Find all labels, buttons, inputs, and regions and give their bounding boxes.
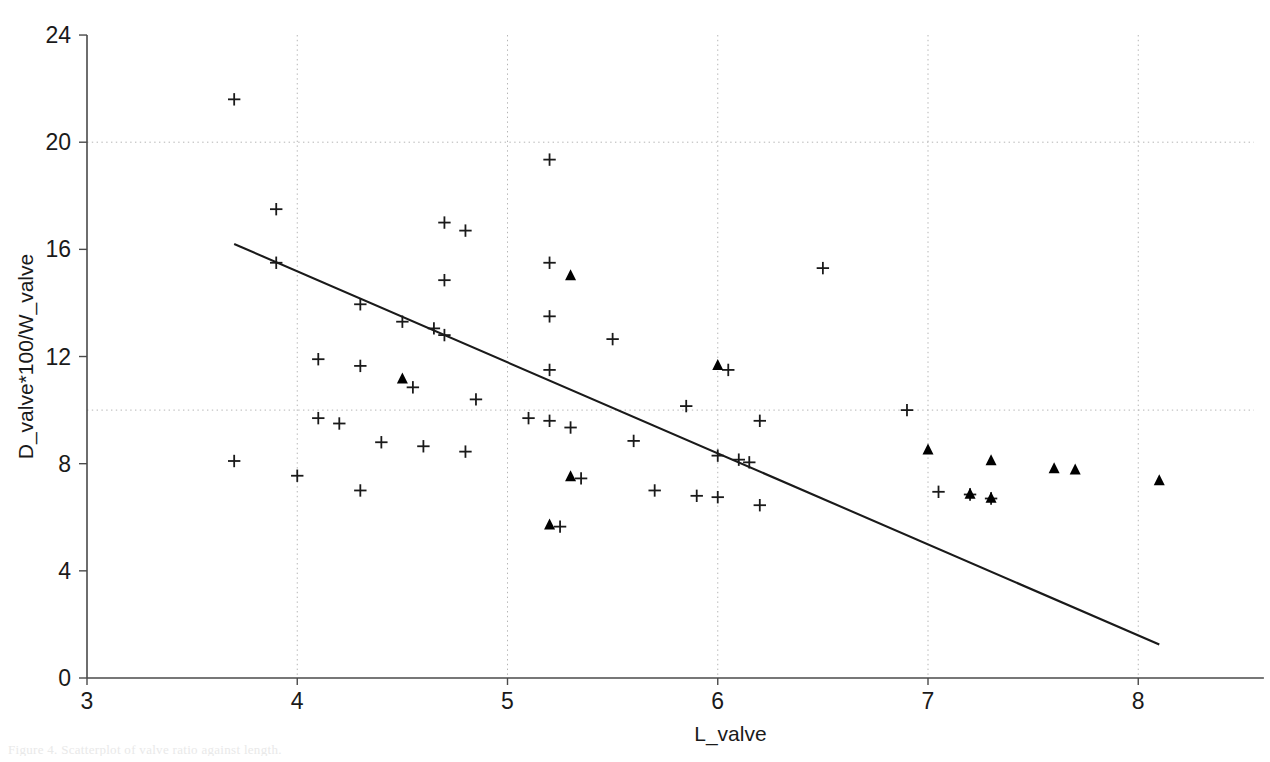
plus-marker xyxy=(459,445,471,457)
plus-marker xyxy=(470,393,482,405)
plus-marker xyxy=(722,364,734,376)
gridlines-group xyxy=(87,35,1254,678)
data-markers-group xyxy=(228,93,1165,533)
plus-marker xyxy=(543,364,555,376)
plus-marker xyxy=(354,484,366,496)
plus-marker xyxy=(901,404,913,416)
plus-marker xyxy=(754,499,766,511)
plus-marker xyxy=(312,412,324,424)
y-tick-label: 8 xyxy=(58,451,71,477)
plus-marker xyxy=(680,400,692,412)
scatter-plot: 34567804812162024L_valveD_valve*100/W_va… xyxy=(0,0,1270,762)
x-axis-title: L_valve xyxy=(694,722,766,746)
triangle-marker xyxy=(565,269,576,280)
plus-marker xyxy=(312,353,324,365)
plus-marker xyxy=(407,381,419,393)
plus-marker xyxy=(554,520,566,532)
triangle-marker xyxy=(1049,462,1060,473)
plus-marker xyxy=(754,415,766,427)
series-plus-series xyxy=(228,93,997,533)
y-tick-label: 24 xyxy=(45,22,71,48)
plus-marker xyxy=(438,274,450,286)
x-tick-label: 4 xyxy=(291,688,304,714)
triangle-marker xyxy=(1154,474,1165,485)
triangle-marker xyxy=(965,488,976,499)
figure-caption: Figure 4. Scatterplot of valve ratio aga… xyxy=(8,742,628,756)
plus-marker xyxy=(522,412,534,424)
figure-panel: 34567804812162024L_valveD_valve*100/W_va… xyxy=(0,0,1270,762)
plus-marker xyxy=(712,491,724,503)
plus-marker xyxy=(228,93,240,105)
plus-marker xyxy=(543,415,555,427)
y-tick-label: 16 xyxy=(45,236,71,262)
triangle-marker xyxy=(923,443,934,454)
y-tick-label: 12 xyxy=(45,344,71,370)
triangle-marker xyxy=(565,470,576,481)
plus-marker xyxy=(354,360,366,372)
triangle-marker xyxy=(1070,464,1081,475)
plus-marker xyxy=(417,440,429,452)
triangle-marker xyxy=(544,518,555,529)
x-tick-label: 8 xyxy=(1132,688,1145,714)
ticks-group: 34567804812162024 xyxy=(45,22,1144,714)
plus-marker xyxy=(575,472,587,484)
plus-marker xyxy=(627,435,639,447)
plus-marker xyxy=(648,484,660,496)
axes-group xyxy=(87,35,1264,678)
plus-marker xyxy=(932,486,944,498)
plus-marker xyxy=(270,203,282,215)
trend-line xyxy=(234,244,1159,645)
plus-marker xyxy=(291,470,303,482)
triangle-marker xyxy=(986,454,997,465)
x-tick-label: 3 xyxy=(81,688,94,714)
plus-marker xyxy=(543,153,555,165)
plus-marker xyxy=(606,333,618,345)
plus-marker xyxy=(817,262,829,274)
plus-marker xyxy=(691,490,703,502)
plus-marker xyxy=(228,455,240,467)
x-tick-label: 5 xyxy=(501,688,514,714)
plus-marker xyxy=(543,257,555,269)
plus-marker xyxy=(543,310,555,322)
plus-marker xyxy=(459,224,471,236)
plus-marker xyxy=(333,417,345,429)
triangle-marker xyxy=(397,372,408,383)
plus-marker xyxy=(438,216,450,228)
plus-marker xyxy=(375,436,387,448)
y-axis-title: D_valve*100/W_valve xyxy=(14,254,38,459)
y-tick-label: 4 xyxy=(58,558,71,584)
series-triangle-series xyxy=(397,269,1165,529)
triangle-marker xyxy=(712,359,723,370)
y-tick-label: 20 xyxy=(45,129,71,155)
x-tick-label: 7 xyxy=(922,688,935,714)
x-tick-label: 6 xyxy=(711,688,724,714)
y-tick-label: 0 xyxy=(58,665,71,691)
triangle-marker xyxy=(986,492,997,503)
plus-marker xyxy=(564,421,576,433)
